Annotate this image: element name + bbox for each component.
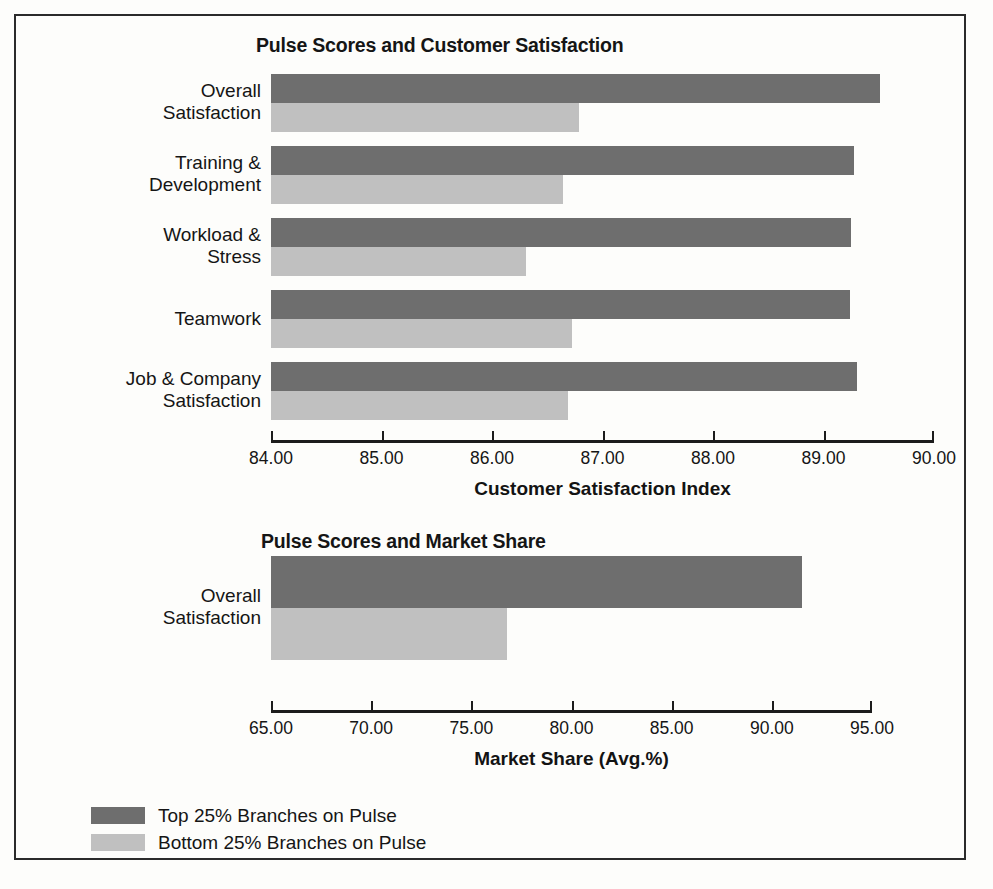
x-axis-tick-label: 80.00 — [527, 718, 617, 739]
x-axis-tick — [371, 701, 373, 713]
x-axis-tick — [492, 431, 494, 443]
category-label-line: Stress — [61, 246, 261, 268]
x-axis-tick-label: 85.00 — [627, 718, 717, 739]
x-axis-tick-label: 90.00 — [889, 448, 979, 469]
category-label: OverallSatisfaction — [61, 585, 261, 630]
x-axis-tick-label: 87.00 — [558, 448, 648, 469]
x-axis-tick-label: 85.00 — [337, 448, 427, 469]
category-label: OverallSatisfaction — [61, 80, 261, 125]
x-axis-tick-label: 88.00 — [668, 448, 758, 469]
legend-label: Top 25% Branches on Pulse — [158, 805, 397, 827]
chart2-x-axis-title: Market Share (Avg.%) — [271, 748, 872, 770]
category-label-line: Teamwork — [61, 308, 261, 330]
legend-swatch-bottom — [91, 834, 145, 851]
category-label-line: Satisfaction — [61, 102, 261, 124]
x-axis-tick-label: 75.00 — [426, 718, 516, 739]
x-axis-tick-label: 65.00 — [226, 718, 316, 739]
category-label: Teamwork — [61, 308, 261, 330]
x-axis-tick — [713, 431, 715, 443]
chart1-title: Pulse Scores and Customer Satisfaction — [256, 34, 623, 57]
x-axis-tick — [271, 701, 273, 713]
x-axis-tick — [672, 701, 674, 713]
x-axis-tick-label: 90.00 — [727, 718, 817, 739]
chart1-x-axis-title: Customer Satisfaction Index — [271, 478, 934, 500]
category-label: Job & CompanySatisfaction — [61, 368, 261, 413]
chart-pulse-customer-satisfaction: Pulse Scores and Customer Satisfaction O… — [16, 16, 968, 516]
bar-top — [271, 362, 857, 391]
category-label: Training &Development — [61, 152, 261, 197]
x-axis-tick — [271, 431, 273, 443]
chart2-title: Pulse Scores and Market Share — [261, 530, 546, 553]
figure-frame: Pulse Scores and Customer Satisfaction O… — [14, 14, 966, 860]
bar-bottom — [271, 103, 579, 132]
legend-item: Top 25% Branches on Pulse — [91, 802, 426, 829]
bar-top — [271, 556, 802, 608]
bar-bottom — [271, 247, 526, 276]
category-label-line: Job & Company — [61, 368, 261, 390]
figure-page: Pulse Scores and Customer Satisfaction O… — [0, 0, 993, 889]
bar-top — [271, 290, 850, 319]
chart-legend: Top 25% Branches on PulseBottom 25% Bran… — [91, 802, 426, 856]
x-axis-tick — [772, 701, 774, 713]
bar-top — [271, 74, 880, 103]
legend-item: Bottom 25% Branches on Pulse — [91, 829, 426, 856]
bar-top — [271, 146, 854, 175]
legend-label: Bottom 25% Branches on Pulse — [158, 832, 426, 854]
category-label-line: Development — [61, 174, 261, 196]
category-label-line: Workload & — [61, 224, 261, 246]
category-label-line: Satisfaction — [61, 390, 261, 412]
category-label-line: Training & — [61, 152, 261, 174]
category-label: Workload &Stress — [61, 224, 261, 269]
chart-pulse-market-share: Pulse Scores and Market Share OverallSat… — [16, 514, 968, 774]
x-axis-tick — [382, 431, 384, 443]
x-axis-tick — [824, 431, 826, 443]
bar-bottom — [271, 391, 568, 420]
x-axis-tick — [932, 431, 934, 443]
category-label-line: Overall — [61, 80, 261, 102]
category-label-line: Satisfaction — [61, 607, 261, 629]
x-axis-tick-label: 70.00 — [326, 718, 416, 739]
x-axis-tick-label: 84.00 — [226, 448, 316, 469]
legend-swatch-top — [91, 807, 145, 824]
x-axis-tick — [572, 701, 574, 713]
x-axis-tick — [870, 701, 872, 713]
bar-bottom — [271, 608, 507, 660]
x-axis-tick-label: 89.00 — [779, 448, 869, 469]
x-axis-tick-label: 86.00 — [447, 448, 537, 469]
bar-top — [271, 218, 851, 247]
bar-bottom — [271, 175, 563, 204]
bar-bottom — [271, 319, 572, 348]
x-axis-tick-label: 95.00 — [827, 718, 917, 739]
x-axis-tick — [471, 701, 473, 713]
category-label-line: Overall — [61, 585, 261, 607]
x-axis-tick — [603, 431, 605, 443]
